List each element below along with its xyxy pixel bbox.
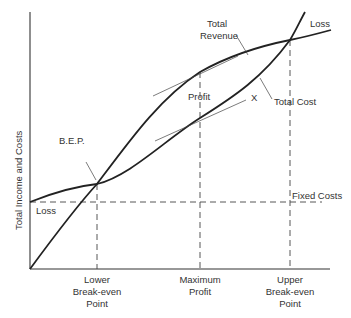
total-revenue-label-1: Total bbox=[207, 18, 227, 29]
max-profit-label-2: Profit bbox=[189, 286, 212, 297]
profit-label: Profit bbox=[188, 91, 211, 102]
break-even-diagram: Total Income and Costs B.E.P. Total Reve… bbox=[0, 0, 351, 318]
total-revenue-curve bbox=[30, 30, 331, 269]
cost-leader bbox=[260, 78, 272, 99]
lower-bep-label-3: Point bbox=[86, 298, 108, 309]
max-profit-label-1: Maximum bbox=[179, 274, 220, 285]
total-cost-curve bbox=[30, 12, 305, 202]
upper-bep-label-2: Break-even bbox=[266, 286, 315, 297]
upper-bep-label-1: Upper bbox=[277, 274, 303, 285]
total-revenue-label-2: Revenue bbox=[200, 30, 238, 41]
y-axis-label: Total Income and Costs bbox=[13, 130, 24, 230]
revenue-tangent bbox=[153, 56, 238, 96]
lower-bep-label-1: Lower bbox=[84, 274, 110, 285]
bep-leader bbox=[86, 162, 96, 180]
upper-bep-label-3: Point bbox=[279, 298, 301, 309]
x-marker-label: X bbox=[251, 92, 258, 103]
fixed-costs-label: Fixed Costs bbox=[292, 190, 342, 201]
cost-tangent bbox=[155, 100, 246, 141]
total-cost-label: Total Cost bbox=[274, 96, 317, 107]
lower-bep-label-2: Break-even bbox=[73, 286, 122, 297]
loss-left-label: Loss bbox=[36, 205, 56, 216]
bep-label: B.E.P. bbox=[59, 135, 85, 146]
loss-right-label: Loss bbox=[310, 18, 330, 29]
